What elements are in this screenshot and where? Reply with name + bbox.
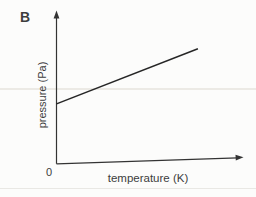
x-axis-arrow-icon: [236, 155, 244, 161]
x-axis: [57, 158, 238, 164]
y-axis-arrow-icon: [54, 11, 60, 19]
x-axis-label: temperature (K): [108, 172, 189, 184]
panel-label: B: [20, 9, 31, 25]
data-line: [57, 49, 198, 104]
origin-tick-label: 0: [46, 166, 52, 178]
y-axis-label: pressure (Pa): [36, 62, 48, 129]
pressure-temperature-graph: B pressure (Pa) temperature (K) 0: [0, 0, 256, 197]
